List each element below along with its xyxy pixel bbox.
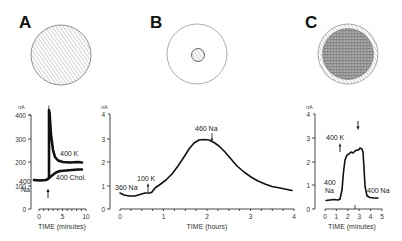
svg-text:1: 1 (162, 213, 166, 220)
svg-text:3: 3 (306, 135, 310, 142)
svg-text:2: 2 (205, 213, 209, 220)
svg-text:100 K: 100 K (137, 175, 156, 182)
panel-c: C nA 4 3 2 1 0 0 1 2 3 4 5 TIME (minutes… (305, 13, 390, 231)
panel-a: A nA 400 300 200 100 0 0 5 10 TIME (minu… (15, 13, 91, 231)
svg-text:1: 1 (101, 183, 105, 190)
x-label-a: TIME (minutes) (38, 223, 86, 231)
x-ticks-c (336, 205, 370, 211)
svg-text:4: 4 (101, 111, 105, 118)
figure: A nA 400 300 200 100 0 0 5 10 TIME (minu… (0, 0, 402, 241)
svg-text:400 K: 400 K (326, 134, 345, 141)
svg-text:10: 10 (82, 213, 90, 220)
arrow-up-icon (147, 183, 149, 192)
svg-text:300: 300 (15, 136, 26, 143)
trace-b (120, 140, 292, 197)
svg-text:4: 4 (292, 213, 296, 220)
svg-text:0: 0 (37, 213, 41, 220)
svg-text:3: 3 (101, 136, 105, 143)
y-ticks-a: 400 300 200 100 0 (15, 112, 31, 213)
svg-text:5: 5 (61, 213, 65, 220)
y-axis-c (312, 114, 315, 209)
svg-text:Na: Na (21, 186, 30, 193)
svg-text:2: 2 (346, 213, 350, 220)
arrow-up-icon (47, 189, 50, 199)
panel-letter-c: C (305, 13, 317, 32)
svg-text:2: 2 (101, 159, 105, 166)
panel-b: B nA 4 3 2 1 0 0 1 2 3 4 (101, 13, 296, 231)
svg-text:0: 0 (101, 206, 105, 213)
panel-letter-b: B (150, 13, 162, 32)
cell-diagram-c-core (323, 29, 374, 80)
arrow-down-icon (357, 121, 360, 130)
svg-text:400 K: 400 K (60, 150, 79, 157)
y-unit-c: nA (306, 104, 313, 110)
svg-text:Na: Na (325, 187, 334, 194)
svg-text:400 Chol.: 400 Chol. (56, 174, 86, 181)
svg-text:3: 3 (357, 213, 361, 220)
svg-text:400: 400 (324, 179, 336, 186)
svg-text:0: 0 (22, 206, 26, 213)
svg-text:4: 4 (369, 213, 373, 220)
svg-text:200: 200 (15, 159, 26, 166)
svg-text:460 Na: 460 Na (195, 125, 218, 132)
cell-diagram-b-center (192, 49, 205, 62)
svg-text:400 Na: 400 Na (367, 187, 390, 194)
svg-text:4: 4 (306, 111, 310, 118)
svg-text:400: 400 (15, 112, 26, 119)
y-unit-a: nA (18, 104, 25, 110)
svg-text:360 Na: 360 Na (115, 184, 138, 191)
svg-text:2: 2 (306, 159, 310, 166)
svg-text:0: 0 (118, 213, 122, 220)
svg-text:1: 1 (306, 182, 310, 189)
x-label-c: TIME (minutes) (328, 223, 376, 231)
x-axis-c (325, 209, 382, 211)
svg-text:5: 5 (380, 213, 384, 220)
svg-text:0: 0 (306, 206, 310, 213)
y-axis-b (107, 114, 110, 209)
arrow-up-icon (339, 143, 341, 152)
svg-text:400: 400 (19, 178, 31, 185)
y-unit-b: nA (101, 104, 108, 110)
cell-diagram-a (31, 25, 91, 85)
x-label-b: TIME (hours) (187, 223, 228, 231)
svg-text:0: 0 (323, 213, 327, 220)
svg-text:1: 1 (335, 213, 339, 220)
svg-text:3: 3 (249, 213, 253, 220)
panel-letter-a: A (19, 13, 31, 32)
